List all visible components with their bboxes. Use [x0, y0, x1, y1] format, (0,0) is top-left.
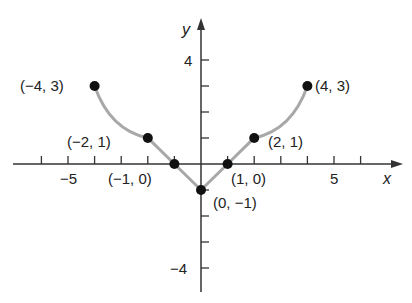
- point-label-1-0: (1, 0): [231, 170, 266, 187]
- y-tick-label-neg4: −4: [170, 260, 187, 277]
- point-4-3: [302, 81, 312, 91]
- y-axis-label: y: [181, 21, 191, 38]
- x-axis-arrow-icon: [391, 160, 403, 168]
- x-axis-label: x: [382, 170, 392, 187]
- y-tick-label-4: 4: [184, 52, 192, 69]
- point-1-0: [223, 159, 233, 169]
- point-label-neg1-0: (−1, 0): [108, 170, 152, 187]
- x-axis: [13, 160, 403, 168]
- x-tick-label-neg5: −5: [60, 170, 77, 187]
- point-neg4-3: [90, 81, 100, 91]
- point-neg1-0: [169, 159, 179, 169]
- point-label-neg4-3: (−4, 3): [20, 77, 64, 94]
- y-axis-arrow-icon: [197, 18, 205, 30]
- x-tick-label-5: 5: [330, 170, 338, 187]
- point-neg2-1: [143, 133, 153, 143]
- point-label-2-1: (2, 1): [268, 133, 303, 150]
- point-2-1: [249, 133, 259, 143]
- point-label-0-neg1: (0, −1): [213, 194, 257, 211]
- y-axis: [197, 18, 205, 292]
- point-label-neg2-1: (−2, 1): [67, 133, 111, 150]
- point-label-4-3: (4, 3): [315, 77, 350, 94]
- point-0-neg1: [196, 185, 206, 195]
- graph-figure: y x −5 5 4 −4 (−4, 3) (−2, 1) (−1, 0) (0…: [0, 0, 412, 303]
